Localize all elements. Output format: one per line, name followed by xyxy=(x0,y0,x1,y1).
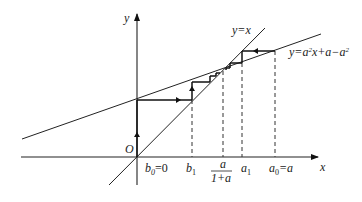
tick-label-fixed-point: a 1+a xyxy=(211,157,232,185)
arrow-right-icon xyxy=(176,97,181,103)
y-axis-label: y xyxy=(123,11,130,25)
svg-text:a: a xyxy=(220,157,226,171)
x-axis-label: x xyxy=(319,160,326,174)
tick-label-b0: b0=0 xyxy=(145,161,168,177)
tick-label-a1: a1 xyxy=(241,161,251,177)
arrow-left-icon xyxy=(253,48,258,54)
affine-line-label: y=a2x+a−a2 xyxy=(288,45,349,59)
tick-label-b1: b1 xyxy=(186,161,196,177)
affine-line xyxy=(22,34,321,139)
dashed-guides xyxy=(192,51,275,157)
tick-label-a0: a0=a xyxy=(269,161,293,177)
arrow-up-icon xyxy=(189,86,195,91)
cobweb-diagram: y x O y=x y=a2x+a−a2 b0=0 b1 a 1+a a1 a0… xyxy=(0,0,362,202)
identity-line-label: y=x xyxy=(231,23,251,37)
origin-label: O xyxy=(125,142,134,156)
arrow-up-icon xyxy=(134,132,140,137)
svg-text:1+a: 1+a xyxy=(211,171,231,185)
